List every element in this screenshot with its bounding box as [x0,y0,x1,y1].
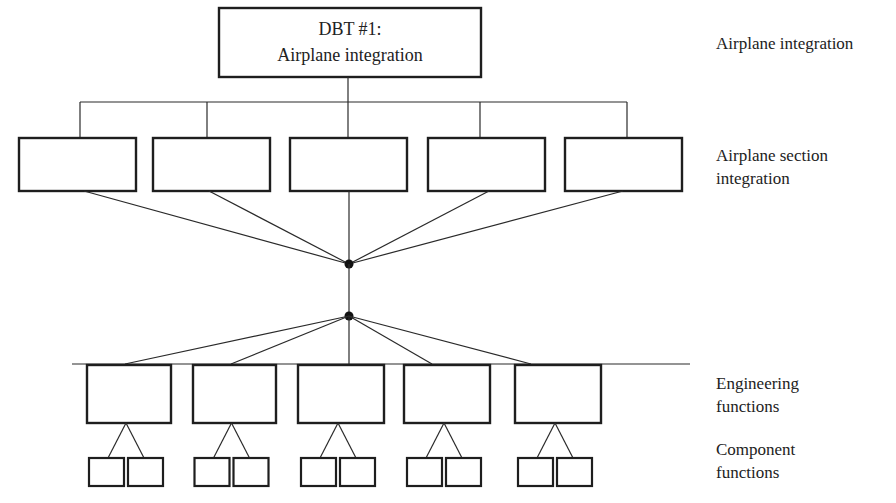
section-box [290,138,407,191]
engineering-box [193,365,276,423]
lower-fan-line [231,316,349,364]
upper-fan-line [349,191,623,264]
component-branch-line [126,423,144,458]
lower-fan-line [349,316,432,364]
section-drop-lines [80,102,627,138]
label-line: integration [716,169,790,188]
label-line: functions [716,463,779,482]
section-box [19,138,136,191]
section-box [565,138,682,191]
component-box [301,458,336,486]
lower-fan-line [125,316,349,364]
lower-fan-line [349,316,531,364]
level-label-airplane-integration: Airplane integration [716,34,854,53]
component-box [340,458,375,486]
component-box [89,458,124,486]
engineering-boxes [87,365,601,423]
component-branch-line [108,423,126,458]
component-branch-line [555,423,573,458]
component-box [234,458,269,486]
component-branch-line [338,423,356,458]
dbt-hierarchy-diagram: DBT #1: Airplane integration Airplane in… [0,0,896,503]
component-box [557,458,592,486]
label-line: Airplane integration [716,34,854,53]
section-box [153,138,270,191]
upper-fan-line [349,191,489,264]
component-boxes [89,423,592,486]
lower-fan-lines [125,316,531,364]
top-box-title: DBT #1: [318,19,381,39]
label-line: Engineering [716,374,800,393]
upper-fan-line [209,191,349,264]
upper-fan-lines [84,191,623,264]
level-label-engineering-functions: Engineering functions [716,374,800,416]
component-box [128,458,163,486]
engineering-box [515,365,601,423]
label-line: functions [716,397,779,416]
engineering-box [298,365,384,423]
section-boxes [19,138,682,191]
top-box-dbt1: DBT #1: Airplane integration [219,8,481,77]
component-box [446,458,481,486]
component-branch-line [320,423,338,458]
component-branch-line [537,423,555,458]
level-label-component-functions: Component functions [716,440,796,482]
component-branch-line [232,423,250,458]
component-branch-line [214,423,232,458]
label-line: Airplane section [716,146,828,165]
component-branch-line [426,423,444,458]
engineering-box [87,365,171,423]
label-line: Component [716,440,796,459]
section-box [428,138,545,191]
engineering-box [404,365,490,423]
component-box [195,458,230,486]
component-box [407,458,442,486]
upper-fan-line [84,191,349,264]
level-label-airplane-section-integration: Airplane section integration [716,146,828,188]
component-box [518,458,553,486]
component-branch-line [444,423,462,458]
top-box-subtitle: Airplane integration [277,45,422,65]
